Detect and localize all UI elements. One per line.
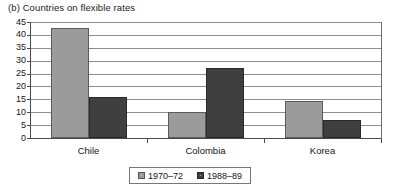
- chart-legend: 1970–721988–89: [129, 167, 251, 184]
- legend-label: 1970–72: [148, 171, 183, 181]
- legend-label: 1988–89: [207, 171, 242, 181]
- legend-entry: 1988–89: [197, 171, 242, 181]
- y-axis-tick-label: 15: [2, 95, 26, 104]
- x-axis-category-label: Colombia: [166, 145, 246, 156]
- plot-right-border: [381, 22, 382, 139]
- bar-korea-1970-72: [285, 101, 323, 138]
- y-axis-tick-label: 10: [2, 108, 26, 117]
- bar-chile-1988-89: [89, 97, 127, 138]
- x-axis-category-label: Chile: [49, 145, 129, 156]
- bar-chart-figure: (b) Countries on flexible rates 05101520…: [0, 0, 393, 190]
- y-axis-tick-label: 5: [2, 121, 26, 130]
- y-axis-tick-label: 35: [2, 43, 26, 52]
- legend-swatch-light-gray-icon: [138, 172, 145, 179]
- legend-swatch-dark-gray-icon: [197, 172, 204, 179]
- x-axis-tick-mark: [147, 139, 148, 143]
- y-axis-tick-label: 45: [2, 18, 26, 27]
- y-axis-tick-label: 20: [2, 82, 26, 91]
- y-axis-tick-label: 0: [2, 134, 26, 143]
- chart-title: (b) Countries on flexible rates: [8, 2, 135, 14]
- x-axis-tick-mark: [264, 139, 265, 143]
- y-axis: 051015202530354045: [0, 0, 26, 190]
- y-axis-tick-label: 25: [2, 69, 26, 78]
- y-axis-tick-label: 40: [2, 30, 26, 39]
- bar-colombia-1970-72: [168, 112, 206, 138]
- bar-chile-1970-72: [51, 28, 89, 138]
- y-axis-tick-label: 30: [2, 56, 26, 65]
- bar-colombia-1988-89: [206, 68, 244, 138]
- bar-korea-1988-89: [323, 120, 361, 138]
- x-axis-tick-mark: [381, 139, 382, 143]
- legend-entry: 1970–72: [138, 171, 183, 181]
- x-axis-category-label: Korea: [283, 145, 363, 156]
